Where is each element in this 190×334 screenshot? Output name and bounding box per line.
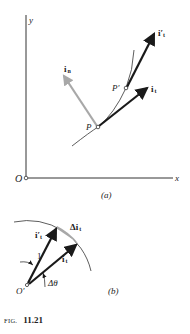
angle-arrow-left	[20, 262, 33, 265]
origin-marker	[24, 176, 28, 180]
vector-it-prime-label: i′t	[158, 28, 165, 38]
origin-label: O	[15, 173, 22, 184]
tangent-vector-it-prime	[127, 34, 154, 87]
point-p-marker	[96, 125, 100, 129]
normal-vector-in	[64, 76, 97, 126]
figure-caption: FIG. 11.21	[4, 309, 44, 326]
vector-it-prime-b-label: i′t	[35, 230, 42, 240]
point-p-label: P	[85, 122, 92, 132]
part-a-label: (a)	[101, 190, 112, 200]
angle-arrow-right	[43, 273, 45, 287]
vector-in-label: in	[64, 64, 72, 74]
figure-11-21: y x O P P′ in it i′t (a)	[0, 0, 190, 334]
origin-prime-label: O′	[16, 286, 25, 296]
y-axis-label: y	[28, 15, 33, 25]
delta-it-label: Δit	[70, 222, 81, 232]
angle-label: Δθ	[47, 278, 58, 288]
part-b-label: (b)	[108, 286, 119, 296]
part-b-diagram: O′ i′t 1 it Δit Δθ (b)	[14, 221, 119, 296]
vector-it-label: it	[151, 84, 157, 94]
point-p-prime-label: P′	[111, 83, 120, 93]
radius-label: 1	[37, 251, 42, 261]
x-axis-label: x	[174, 173, 179, 183]
trajectory-curve	[72, 50, 134, 146]
part-a-diagram: y x O P P′ in it i′t (a)	[15, 15, 179, 200]
origin-prime-marker	[25, 283, 28, 286]
point-p-prime-marker	[124, 86, 128, 90]
